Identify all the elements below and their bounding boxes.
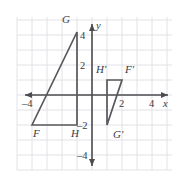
x-tick-label-neg4: –4 bbox=[21, 98, 33, 109]
plot-canvas: –4 2 4 x 4 2 –2 –4 y G F H H′ F′ G′ bbox=[0, 0, 183, 182]
x-axis-name: x bbox=[162, 98, 168, 109]
grid-lines bbox=[17, 17, 172, 170]
vertex-label-g-prime: G′ bbox=[113, 128, 124, 140]
triangle-fgh bbox=[32, 32, 77, 125]
y-tick-label-4: 4 bbox=[80, 30, 86, 41]
x-tick-label-4: 4 bbox=[149, 98, 155, 109]
y-tick-label-neg4: –4 bbox=[76, 150, 88, 161]
vertex-label-g: G bbox=[62, 13, 70, 25]
y-tick-label-2: 2 bbox=[80, 60, 85, 71]
y-axis-name: y bbox=[95, 20, 101, 31]
coordinate-plane-figure: –4 2 4 x 4 2 –2 –4 y G F H H′ F′ G′ bbox=[0, 0, 183, 182]
vertex-label-h-prime: H′ bbox=[95, 63, 107, 75]
vertex-label-f-prime: F′ bbox=[124, 63, 135, 75]
vertex-label-h: H bbox=[70, 127, 80, 139]
vertex-label-f: F bbox=[32, 127, 40, 139]
x-tick-label-2: 2 bbox=[119, 98, 124, 109]
